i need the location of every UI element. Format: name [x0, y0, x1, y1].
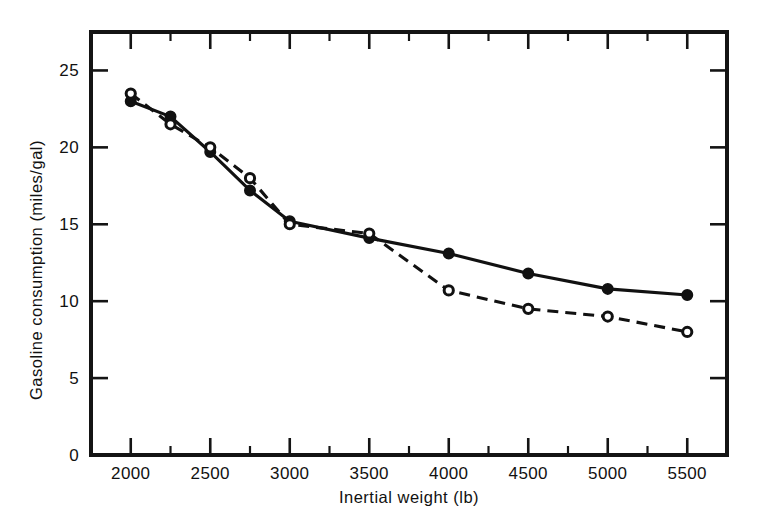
top-axis-ticks — [131, 32, 688, 49]
x-tick-label-4500: 4500 — [509, 464, 548, 483]
y-axis-ticks — [91, 70, 108, 455]
series-markers — [126, 89, 693, 337]
y-axis-title: Gasoline consumption (miles/gal) — [27, 140, 45, 400]
x-tick-label-3000: 3000 — [270, 464, 309, 483]
x-axis-tick-labels: 20002500300035004000450050005500 — [111, 464, 707, 483]
data-point-dashed-open-circles-3500 — [365, 229, 374, 238]
series-line-solid-filled-circles — [131, 101, 688, 295]
x-tick-label-5000: 5000 — [588, 464, 627, 483]
x-tick-label-5500: 5500 — [668, 464, 707, 483]
data-point-solid-filled-circles-5500 — [682, 290, 692, 300]
y-tick-label-25: 25 — [59, 61, 79, 80]
y-tick-label-5: 5 — [69, 369, 79, 388]
line-chart: 0510152025 20002500300035004000450050005… — [0, 0, 769, 523]
y-tick-label-20: 20 — [59, 138, 79, 157]
y-tick-label-15: 15 — [59, 215, 79, 234]
y-axis-tick-labels: 0510152025 — [59, 61, 79, 465]
x-tick-label-3500: 3500 — [350, 464, 389, 483]
x-tick-label-2500: 2500 — [191, 464, 230, 483]
data-point-solid-filled-circles-2750 — [245, 185, 255, 195]
series-line-dashed-open-circles — [131, 94, 688, 332]
data-point-solid-filled-circles-4000 — [444, 248, 454, 258]
data-point-dashed-open-circles-4500 — [524, 304, 533, 313]
chart-figure: 0510152025 20002500300035004000450050005… — [0, 0, 769, 523]
data-point-dashed-open-circles-2250 — [166, 120, 175, 129]
data-point-dashed-open-circles-2000 — [126, 89, 135, 98]
x-axis-title: Inertial weight (lb) — [339, 488, 479, 506]
x-tick-label-4000: 4000 — [429, 464, 468, 483]
data-point-dashed-open-circles-4000 — [444, 286, 453, 295]
axis-frame — [91, 32, 727, 455]
y-tick-label-10: 10 — [59, 292, 79, 311]
right-axis-ticks — [710, 70, 727, 455]
y-tick-label-0: 0 — [69, 446, 79, 465]
plot-frame — [91, 32, 727, 455]
data-point-dashed-open-circles-5500 — [683, 327, 692, 336]
series-lines — [131, 94, 688, 332]
data-point-solid-filled-circles-4500 — [523, 268, 533, 278]
data-point-dashed-open-circles-2750 — [245, 174, 254, 183]
x-tick-label-2000: 2000 — [111, 464, 150, 483]
data-point-dashed-open-circles-5000 — [603, 312, 612, 321]
data-point-dashed-open-circles-2500 — [206, 143, 215, 152]
data-point-dashed-open-circles-3000 — [285, 220, 294, 229]
data-point-solid-filled-circles-5000 — [603, 284, 613, 294]
